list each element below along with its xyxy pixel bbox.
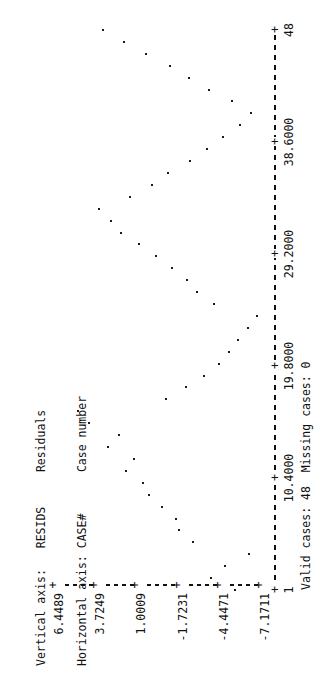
x-axis-tick-label: 38.6000 [283,118,296,166]
missing-cases-label: Missing cases: [299,375,313,472]
data-point [208,89,210,91]
spss-scatterplot-output: Vertical axis: RESIDS Residuals Horizont… [0,0,333,686]
data-point-layer [60,30,266,590]
data-point [196,291,198,293]
x-axis-tick: +48 [268,29,282,30]
data-point [213,303,215,305]
legend-vertical-axis-desc: Residuals [34,410,48,472]
data-point [129,196,131,198]
data-point [120,232,122,234]
x-axis-tick: +29.2000 [268,253,282,254]
data-point [234,589,236,591]
data-point [167,172,169,174]
plot-area: Vertical axis: RESIDS Residuals Horizont… [0,0,333,686]
data-point [123,41,125,43]
data-point [155,255,157,257]
data-point [138,243,140,245]
data-point [165,398,167,400]
data-point [118,434,120,436]
x-axis-tick: +19.8000 [268,365,282,366]
data-point [210,577,212,579]
x-axis-tick: +38.6000 [268,141,282,142]
data-point [222,136,224,138]
y-axis-tick-label: 1.0009 [135,593,148,635]
missing-cases-value: 0 [299,361,313,368]
data-point [161,506,163,508]
data-point [148,494,150,496]
data-point [203,375,205,377]
legend-vertical-axis-line: Vertical axis: RESIDS Residuals [35,396,49,666]
x-axis-dashed-line [274,30,276,590]
y-axis-tick-label: -4.4471 [218,593,231,641]
rotated-page-wrapper: Vertical axis: RESIDS Residuals Horizont… [0,0,333,686]
x-axis-tick-label: 48 [283,23,296,37]
valid-cases-label: Valid cases: [299,507,313,590]
x-axis-tick-glyph: + [268,361,282,370]
data-point [107,446,109,448]
data-point [256,315,258,317]
data-point [188,77,190,79]
y-axis-tick: +-7.1711 [266,580,267,590]
x-axis-tick-glyph: + [268,585,282,594]
data-point [77,410,79,412]
data-point [171,267,173,269]
x-axis: +1+10.4000+19.8000+29.2000+38.6000+48 [268,30,282,590]
data-point [110,220,112,222]
x-axis-tick: +1 [268,589,282,590]
case-summary: Valid cases: 48 Missing cases: 0 [300,361,313,590]
data-point [224,565,226,567]
data-point [189,160,191,162]
data-point [186,279,188,281]
data-point [88,422,90,424]
x-axis-tick-glyph: + [268,137,282,146]
data-point [142,482,144,484]
data-point [125,470,127,472]
data-point [175,518,177,520]
data-point [151,184,153,186]
x-axis-tick-glyph: + [268,25,282,34]
data-point [218,363,220,365]
data-point [206,148,208,150]
data-point [231,101,233,103]
y-axis-tick-label: -1.7231 [177,593,190,641]
data-point [145,53,147,55]
data-point [192,541,194,543]
data-point [133,458,135,460]
x-axis-tick: +10.4000 [268,477,282,478]
data-point [228,351,230,353]
data-point [250,112,252,114]
x-axis-tick-label: 10.4000 [283,454,296,502]
data-point [239,124,241,126]
y-axis-tick-label: 3.7249 [94,593,107,635]
x-axis-tick-label: 1 [283,587,296,594]
data-point [237,339,239,341]
data-point [102,29,104,31]
x-axis-tick-glyph: + [268,249,282,258]
legend-vertical-axis-value: RESIDS [34,507,48,549]
y-axis-tick-glyph: + [53,580,54,590]
x-axis-tick-label: 19.8000 [283,342,296,390]
data-point [98,208,100,210]
data-point [247,327,249,329]
data-point [248,553,250,555]
y-axis-tick-label: 6.4489 [53,593,66,635]
x-axis-tick-label: 29.2000 [283,230,296,278]
y-axis-tick-label: -7.1711 [259,593,272,641]
data-point [169,65,171,67]
data-point [185,386,187,388]
data-point [178,529,180,531]
valid-cases-value: 48 [299,486,313,500]
x-axis-tick-glyph: + [268,473,282,482]
